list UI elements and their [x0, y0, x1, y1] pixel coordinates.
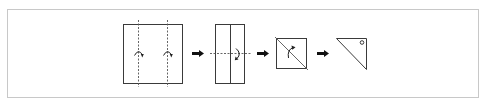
- circle-marker-icon: [360, 41, 364, 45]
- right-arrow-icon: [257, 50, 269, 57]
- fold-line-diagonal: [275, 37, 308, 70]
- triangle-outline: [337, 39, 367, 70]
- step-3-square: [275, 37, 308, 70]
- folding-diagram: [0, 0, 487, 107]
- step-2-rectangle: [210, 25, 251, 84]
- fold-arc-icon: [235, 49, 239, 61]
- right-arrow-icon: [192, 50, 204, 57]
- fold-arc-icon: [164, 52, 173, 58]
- right-arrow-icon: [317, 50, 329, 57]
- fold-arc-icon: [135, 52, 144, 58]
- square-outline: [124, 25, 183, 84]
- step-1-square: [124, 20, 183, 87]
- step-4-triangle: [337, 39, 367, 70]
